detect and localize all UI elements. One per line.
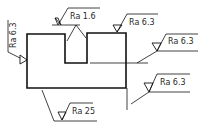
roughness-symbol-left: Ra 6.3 — [8, 20, 27, 64]
part-outline — [27, 33, 126, 88]
label-notch: Ra 1.6 — [70, 12, 96, 21]
roughness-symbol-notch: Ra 1.6 — [52, 8, 100, 41]
roughness-symbol-bottom: Ra 25 — [42, 90, 97, 121]
roughness-drawing: Ra 6.3 Ra 1.6 Ra 6.3 Ra 6.3 Ra 6.3 — [0, 0, 205, 131]
label-right-face: Ra 6.3 — [160, 78, 186, 87]
label-bottom: Ra 25 — [72, 107, 95, 116]
roughness-symbol-notch-floor: Ra 6.3 — [137, 34, 198, 63]
roughness-symbol-right-face: Ra 6.3 — [131, 74, 190, 104]
label-notch-floor: Ra 6.3 — [168, 37, 194, 46]
label-top-right: Ra 6.3 — [129, 18, 155, 27]
label-left-face: Ra 6.3 — [9, 22, 18, 48]
roughness-symbol-top-right: Ra 6.3 — [113, 14, 158, 32]
